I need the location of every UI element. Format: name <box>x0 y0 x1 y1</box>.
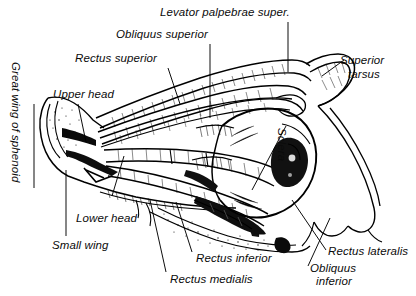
label-rectus-superior: Rectus superior <box>75 52 157 65</box>
label-levator-palpebrae-superioris: Levator palpebrae super. <box>160 6 290 19</box>
label-small-wing: Small wing <box>52 239 109 252</box>
label-lower-head: Lower head <box>76 212 137 225</box>
anatomical-figure: Levator palpebrae super. Obliquus superi… <box>0 0 416 296</box>
leader-rectus-lateralis <box>292 200 326 250</box>
label-rectus-lateralis: Rectus lateralis <box>328 245 408 258</box>
muscle-insertion-fan <box>184 124 234 192</box>
leader-obliquus-inferior <box>308 218 330 266</box>
label-obliquus-inferior-line2: inferior <box>316 275 352 288</box>
label-great-wing-of-sphenoid: Great wing of sphenoid <box>10 62 23 182</box>
label-obliquus-inferior-line1: Obliquus <box>310 262 356 275</box>
label-superior-tarsus-line1: Superior <box>340 54 384 67</box>
eyeball-globe <box>212 108 316 217</box>
obliquus-inferior-muscle <box>194 196 266 235</box>
leader-rectus-inferior <box>176 202 192 252</box>
sclera-shading <box>230 126 262 209</box>
label-rectus-medialis: Rectus medialis <box>170 273 253 286</box>
rectus-superior-striations <box>114 88 273 142</box>
label-superior-tarsus-line2: tarsus <box>348 68 380 81</box>
label-upper-head: Upper head <box>53 88 114 101</box>
label-obliquus-superior: Obliquus superior <box>116 28 208 41</box>
label-rectus-inferior: Rectus inferior <box>196 252 272 265</box>
label-sclera: Sclera <box>276 128 289 161</box>
